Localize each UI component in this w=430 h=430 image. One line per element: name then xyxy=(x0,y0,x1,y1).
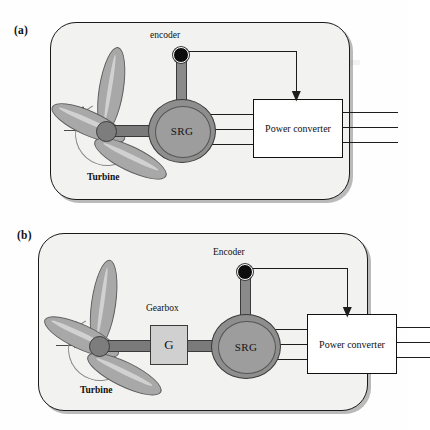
power-converter-a: Power converter xyxy=(253,99,343,158)
encoder-dot-a xyxy=(173,47,189,63)
panel-a: Turbine SRG encoder xyxy=(50,22,350,200)
encoder-signal-horizontal-b xyxy=(251,268,348,269)
phase-wire-a-1 xyxy=(208,114,254,115)
encoder-label-a: encoder xyxy=(150,30,180,40)
power-converter-b-label: Power converter xyxy=(319,339,385,350)
encoder-signal-arrowhead-b xyxy=(341,306,355,318)
phase-wire-a-2 xyxy=(211,129,254,130)
gearbox-b: G xyxy=(150,325,188,365)
panel-b: Turbine Gearbox G SRG Encoder xyxy=(38,233,368,411)
encoder-label-b: Encoder xyxy=(213,247,245,257)
generator-srg-a-label: SRG xyxy=(171,125,193,137)
phase-wire-a-3 xyxy=(208,144,254,145)
power-converter-b: Power converter xyxy=(307,314,397,374)
power-converter-a-label: Power converter xyxy=(265,123,331,134)
encoder-dot-b xyxy=(237,264,253,280)
encoder-signal-vertical-a xyxy=(296,51,297,94)
output-line-b-3 xyxy=(394,357,430,358)
output-line-b-1 xyxy=(394,327,430,328)
turbine-label-b: Turbine xyxy=(80,385,112,395)
output-line-a-1 xyxy=(340,112,398,113)
encoder-signal-horizontal-a xyxy=(187,51,297,52)
encoder-shaft-a xyxy=(176,56,187,104)
gearbox-symbol-b: G xyxy=(164,337,173,353)
turbine-label-a: Turbine xyxy=(87,172,119,182)
phase-wire-b-1 xyxy=(272,329,308,330)
output-line-b-2 xyxy=(394,342,430,343)
turbine-hub-a xyxy=(96,121,117,142)
panel-label-b: (b) xyxy=(17,229,32,241)
gearbox-label-b: Gearbox xyxy=(146,303,179,313)
panel-label-a: (a) xyxy=(14,24,28,36)
output-line-a-3 xyxy=(340,142,398,143)
encoder-signal-arrowhead-a xyxy=(290,90,304,102)
generator-srg-b: SRG xyxy=(211,314,281,379)
generator-srg-a: SRG xyxy=(148,99,216,163)
output-line-a-2 xyxy=(340,127,398,128)
turbine-hub-b xyxy=(89,336,110,357)
generator-srg-b-label: SRG xyxy=(235,341,257,353)
encoder-signal-vertical-b xyxy=(347,268,348,310)
drive-shaft-b-low-speed xyxy=(104,340,152,352)
